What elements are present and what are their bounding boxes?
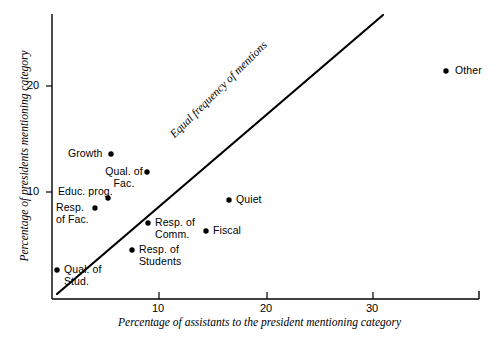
data-point-fiscal [203,228,208,233]
x-axis-title: Percentage of assistants to the presiden… [118,316,401,328]
data-point-resp-of-students [129,247,134,252]
data-point-resp-of-fac [92,205,97,210]
data-point-resp-of-comm [145,220,150,225]
x-tick-label-30: 30 [366,302,378,314]
data-point-quiet [226,197,231,202]
y-axis-title: Percentage of presidents mentioning cate… [18,46,30,266]
data-point-qual-of-stud [54,267,59,272]
point-label-growth: Growth [68,148,102,160]
point-label-quiet: Quiet [236,194,262,206]
equal-frequency-line [57,15,383,294]
data-point-other [443,68,448,73]
x-tick-label-20: 20 [260,302,272,314]
point-label-qual-of-stud: Qual. of Stud. [64,264,102,287]
point-label-other: Other [455,65,482,77]
point-label-resp-of-students: Resp. of Students [139,244,181,267]
data-point-growth [108,151,113,156]
point-label-resp-of-comm: Resp. of Comm. [155,217,195,240]
point-label-resp-of-fac: Resp. of Fac. [56,202,89,225]
point-label-educ-prog: Educ. prog. [58,186,113,198]
data-point-qual-of-fac [144,169,149,174]
scatter-plot: 20 10 10 20 30 Percentage of presidents … [0,0,497,337]
x-tick-label-10: 10 [152,302,164,314]
point-label-fiscal: Fiscal [213,225,241,237]
